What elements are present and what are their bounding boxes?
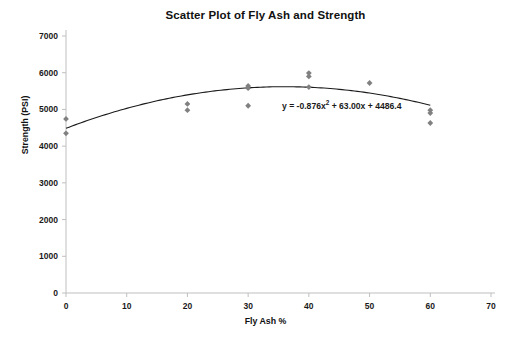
x-axis-tick-label: 70 xyxy=(476,301,506,311)
x-axis-tick-label: 40 xyxy=(294,301,324,311)
x-axis-title: Fly Ash % xyxy=(0,316,531,326)
y-axis-tick-label: 2000 xyxy=(24,215,58,225)
data-point xyxy=(63,130,69,136)
equation-prefix: y = -0.876x xyxy=(282,101,326,111)
data-point xyxy=(185,101,191,107)
x-axis-tick-label: 0 xyxy=(51,301,81,311)
x-axis-tick-label: 60 xyxy=(415,301,445,311)
x-axis-tick-label: 10 xyxy=(112,301,142,311)
axes-group xyxy=(66,30,495,293)
x-axis-tick-label: 20 xyxy=(172,301,202,311)
plot-canvas xyxy=(0,0,531,338)
x-axis-tick-label: 50 xyxy=(355,301,385,311)
scatter-chart: Scatter Plot of Fly Ash and Strength 010… xyxy=(0,0,531,338)
equation-suffix: + 63.00x + 4486.4 xyxy=(329,101,401,111)
data-point xyxy=(63,116,69,122)
x-axis-tick-label: 30 xyxy=(233,301,263,311)
y-axis-tick-label: 1000 xyxy=(24,251,58,261)
data-point xyxy=(245,103,251,109)
data-point xyxy=(367,80,373,86)
y-axis-tick-label: 7000 xyxy=(24,31,58,41)
y-axis-tick-label: 0 xyxy=(24,288,58,298)
trendline-equation-label: y = -0.876x2 + 63.00x + 4486.4 xyxy=(282,99,401,111)
data-point xyxy=(306,73,312,79)
data-point xyxy=(427,110,433,116)
y-axis-tick-label: 3000 xyxy=(24,178,58,188)
ticks-group xyxy=(62,36,491,297)
data-point xyxy=(427,120,433,126)
data-point xyxy=(306,84,312,90)
data-point xyxy=(185,107,191,113)
y-axis-title: Strength (PSI) xyxy=(20,75,30,175)
